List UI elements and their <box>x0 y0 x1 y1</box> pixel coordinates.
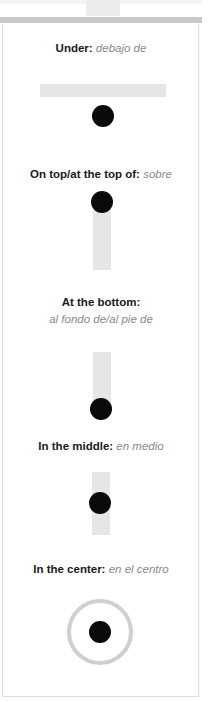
at-bottom-translation: al fondo de/al pie de <box>0 313 202 325</box>
previous-card-connector <box>86 0 120 16</box>
dot-icon <box>92 105 114 127</box>
dot-icon <box>89 621 111 643</box>
in-middle-label: In the middle: en medio <box>0 440 202 452</box>
at-bottom-label: At the bottom: <box>0 296 202 308</box>
dot-icon <box>90 398 112 420</box>
dot-icon <box>89 492 111 514</box>
term: Under: <box>56 42 93 54</box>
vertical-bar <box>93 205 111 270</box>
horizontal-bar <box>40 84 166 97</box>
translation: en medio <box>116 440 163 452</box>
under-label: Under: debajo de <box>0 42 202 54</box>
term: On top/at the top of: <box>30 168 140 180</box>
term: In the middle: <box>38 440 113 452</box>
dot-icon <box>91 191 113 213</box>
in-center-label: In the center: en el centro <box>0 563 202 575</box>
card-header-strip <box>0 17 202 23</box>
translation: sobre <box>143 168 172 180</box>
translation: en el centro <box>109 563 169 575</box>
term: In the center: <box>33 563 105 575</box>
term: At the bottom: <box>62 296 141 308</box>
translation: debajo de <box>96 42 147 54</box>
on-top-label: On top/at the top of: sobre <box>0 168 202 180</box>
